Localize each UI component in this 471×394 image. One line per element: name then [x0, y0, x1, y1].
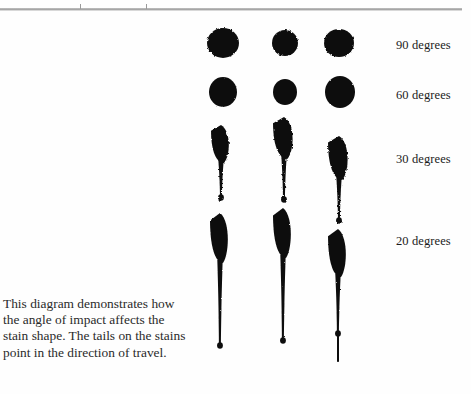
angle-label-20: 20 degrees [396, 234, 451, 249]
caption-line: the angle of impact affects the [3, 312, 208, 328]
stain-tail [280, 255, 285, 339]
angle-label-30: 30 degrees [396, 152, 451, 167]
stain-body [207, 28, 239, 58]
stain-20deg-1 [210, 213, 228, 349]
stain-tail [335, 274, 340, 332]
figure-caption: This diagram demonstrates how the angle … [3, 296, 208, 361]
stain-tail-bulb [336, 217, 342, 224]
stain-60deg-3 [325, 76, 355, 108]
stain-body [211, 125, 229, 163]
stain-90deg-3 [324, 29, 354, 57]
stain-30deg-2 [273, 117, 293, 203]
stain-20deg-3 [328, 229, 346, 337]
caption-line: This diagram demonstrates how [3, 296, 208, 312]
caption-line: stain shape. The tails on the stains [3, 328, 208, 344]
figure-page: 90 degrees 60 degrees 30 degrees 20 degr… [0, 0, 471, 394]
stain-tail [281, 156, 286, 198]
angle-label-90: 90 degrees [396, 38, 451, 53]
stain-90deg-1 [207, 28, 239, 58]
stain-body [273, 208, 291, 258]
stain-tail-bulb [218, 194, 224, 201]
stain-body [328, 136, 348, 180]
caption-line: point in the direction of travel. [3, 345, 208, 361]
stain-body [273, 117, 293, 159]
stain-body [209, 77, 237, 107]
stain-tail-bulb [217, 342, 223, 349]
streak-lower-right [337, 330, 339, 362]
stain-30deg-1 [211, 125, 229, 201]
stain-tail [336, 177, 341, 219]
stain-tail [218, 160, 223, 196]
stain-body [210, 213, 228, 263]
angle-label-60: 60 degrees [396, 88, 451, 103]
stain-60deg-1 [209, 77, 237, 107]
stain-20deg-2 [273, 208, 291, 344]
stain-30deg-3 [328, 136, 348, 224]
stain-body [328, 229, 346, 277]
stain-body [324, 29, 354, 57]
stain-60deg-2 [273, 79, 297, 105]
stain-tail-bulb [280, 337, 286, 344]
stain-body [325, 76, 355, 108]
stain-body [273, 79, 297, 105]
stain-90deg-2 [272, 30, 298, 56]
stain-tail [217, 260, 222, 344]
stain-body [272, 30, 298, 56]
stain-tail-bulb [281, 196, 287, 203]
